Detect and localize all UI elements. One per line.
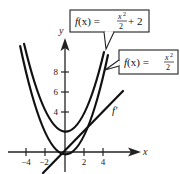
callout-lower-den: 2 <box>166 63 170 72</box>
y-tick-label: 4 <box>54 107 59 117</box>
callout-upper-text: f(x) = <box>75 15 100 28</box>
y-axis-label: y <box>58 25 64 36</box>
x-tick-label: 2 <box>82 157 87 167</box>
y-tick-label: 6 <box>54 87 59 97</box>
callout-upper-exp: 2 <box>123 11 126 17</box>
callout-lower-num: x <box>164 53 169 62</box>
y-tick-label: 8 <box>54 67 59 77</box>
callout-upper-den: 2 <box>119 22 123 31</box>
callout-upper-num: x <box>117 12 122 21</box>
callout-lower-text: f(x) = <box>124 56 149 69</box>
curve-f-x-squared-over-2 <box>20 46 108 154</box>
callout-lower: f(x) = x 2 2 <box>105 50 178 74</box>
callout-upper-tail: + 2 <box>128 15 142 27</box>
curves <box>20 44 123 173</box>
x-axis-label: x <box>142 146 148 157</box>
x-tick-label: 4 <box>101 157 106 167</box>
f-prime-label: f′ <box>112 104 118 116</box>
function-graph: −4 −2 2 4 8 6 4 x y f′ f(x) = x 2 2 + 2 <box>0 0 180 174</box>
callout-lower-exp: 2 <box>170 52 173 58</box>
x-tick-label: −4 <box>21 157 31 167</box>
callout-upper: f(x) = x 2 2 + 2 <box>70 10 149 49</box>
x-tick-label: −2 <box>39 157 49 167</box>
